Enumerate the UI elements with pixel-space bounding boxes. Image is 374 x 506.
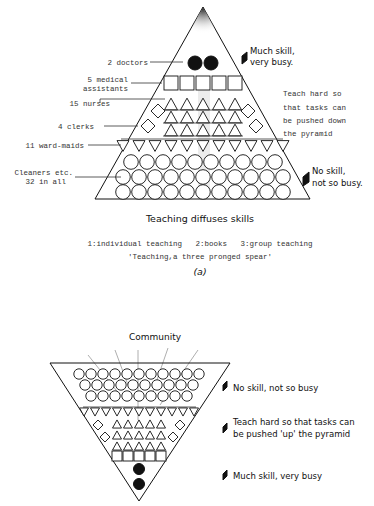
cleaner-circle	[158, 369, 168, 379]
cleaner-circle	[196, 170, 211, 185]
nurse-triangle	[157, 420, 166, 428]
ward-maid-triangle	[165, 141, 177, 152]
cleaner-circle	[212, 170, 227, 185]
doctor-circle	[188, 56, 202, 70]
nurse-triangle	[213, 124, 226, 136]
ward-maid-triangle	[149, 141, 161, 152]
ward-maid-triangle	[113, 408, 122, 416]
nurse-triangle	[113, 442, 122, 450]
nurse-triangle	[181, 98, 194, 110]
cleaner-circle	[124, 155, 139, 170]
ward-maid-triangle	[229, 141, 241, 152]
nurse-triangle	[157, 442, 166, 450]
note-no-skill-1: No skill,	[312, 166, 345, 176]
cleaner-circle	[134, 369, 144, 379]
cleaner-circle	[98, 369, 108, 379]
cleaner-circle	[132, 185, 147, 200]
cleaner-circle	[170, 369, 180, 379]
medical-assistant-square	[196, 76, 210, 90]
cleaner-circle	[204, 155, 219, 170]
clerk-diamond	[100, 432, 110, 442]
arrow-left-icon	[223, 470, 227, 480]
cleaner-circle	[86, 369, 96, 379]
cleaner-circle	[148, 185, 163, 200]
label-ward-maids: 11 ward-maids	[25, 142, 84, 150]
nurse-triangle	[229, 124, 242, 136]
cleaner-circle	[146, 369, 156, 379]
label-medical-assistants-1: 5 medical	[87, 76, 128, 84]
cleaner-circle	[276, 170, 291, 185]
cleaner-circle	[228, 170, 243, 185]
cleaner-circle	[164, 170, 179, 185]
cleaner-circle	[92, 380, 102, 390]
cleaner-circle	[268, 155, 283, 170]
nurse-triangle	[135, 442, 144, 450]
cleaner-circle	[140, 155, 155, 170]
cleaner-circle	[176, 380, 186, 390]
cleaner-circle	[182, 369, 192, 379]
nurse-triangle	[113, 431, 122, 439]
medical-assistant-square	[164, 76, 178, 90]
medical-assistant-square	[228, 76, 242, 90]
medical-assistant-square	[212, 76, 226, 90]
cleaner-circle	[244, 185, 259, 200]
cleaner-circle	[128, 380, 138, 390]
nurse-triangle	[165, 98, 178, 110]
cleaner-circle	[146, 391, 156, 401]
note-b-teach-hard-1: Teach hard so that tasks can	[232, 417, 355, 427]
label-doctors: 2 doctors	[107, 59, 148, 67]
cleaner-circle	[110, 391, 120, 401]
ward-maid-triangle	[117, 141, 129, 152]
note-teach-hard-3: be pushed down	[283, 117, 346, 125]
nurse-triangle	[124, 420, 133, 428]
cleaner-circle	[134, 391, 144, 401]
nurse-triangle	[165, 124, 178, 136]
cleaner-circle	[110, 369, 120, 379]
cleaner-circle	[122, 369, 132, 379]
arrow-left-icon	[303, 172, 309, 186]
note-b-no-skill: No skill, not so busy	[233, 383, 318, 393]
doctor-circle	[204, 56, 218, 70]
cleaner-circle	[122, 391, 132, 401]
cleaner-circle	[260, 185, 275, 200]
cleaner-circle	[132, 170, 147, 185]
nurse-triangle	[229, 111, 242, 123]
community-label: Community	[129, 332, 182, 342]
diagram-canvas: 2 doctors 5 medical assistants 15 nurses…	[0, 0, 374, 506]
nurse-triangle	[229, 98, 242, 110]
cleaner-circle	[164, 185, 179, 200]
cleaner-circle	[220, 155, 235, 170]
label-cleaners-1: Cleaners etc.	[14, 169, 73, 177]
ward-maid-triangle	[133, 141, 145, 152]
clerk-diamond	[93, 420, 103, 430]
label-cleaners-2: 32 in all	[25, 178, 66, 186]
cleaner-circle	[172, 155, 187, 170]
pyramid-a	[95, 7, 310, 199]
cleaner-circle	[212, 185, 227, 200]
note-teach-hard-4: the pyramid	[283, 130, 333, 138]
cleaner-circle	[188, 155, 203, 170]
medical-assistant-square	[156, 451, 166, 461]
nurse-triangle	[124, 442, 133, 450]
doctor-circle	[134, 464, 145, 475]
clerk-diamond	[175, 420, 185, 430]
ward-maid-triangle	[179, 408, 188, 416]
cleaner-circle	[140, 380, 150, 390]
pyramid-b	[50, 363, 230, 501]
ward-maid-triangle	[181, 141, 193, 152]
clerk-diamond	[168, 432, 178, 442]
note-no-skill-2: not so busy.	[312, 178, 363, 188]
ward-maid-triangle	[91, 408, 100, 416]
ward-maid-triangle	[277, 141, 289, 152]
cleaner-circle	[148, 170, 163, 185]
nurse-triangle	[213, 98, 226, 110]
cleaner-circle	[104, 380, 114, 390]
clerk-diamond	[141, 119, 155, 133]
nurse-triangle	[113, 420, 122, 428]
medical-assistant-square	[145, 451, 155, 461]
cleaner-circle	[98, 391, 108, 401]
ward-maid-triangle	[213, 141, 225, 152]
nurse-triangle	[146, 420, 155, 428]
note-b-much-skill: Much skill, very busy	[233, 471, 322, 481]
ward-maid-triangle	[157, 408, 166, 416]
